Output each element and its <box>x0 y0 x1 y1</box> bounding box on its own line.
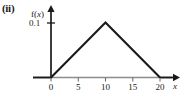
data-series-fx <box>51 23 160 78</box>
x-tick-label-0: 0 <box>49 82 54 92</box>
y-axis-label-suffix: ) <box>41 9 44 19</box>
x-axis-label: x <box>172 81 177 91</box>
figure-container: (ii) f(x) 0.1 0 5 10 15 <box>0 0 182 94</box>
x-tick-label-20: 20 <box>156 82 166 92</box>
y-tick-label-0.1: 0.1 <box>29 18 40 28</box>
x-tick-label-15: 15 <box>128 82 138 92</box>
x-tick-label-10: 10 <box>101 82 111 92</box>
y-axis-arrow-icon <box>47 5 54 12</box>
triangular-pdf-chart: f(x) 0.1 0 5 10 15 20 x <box>0 0 182 94</box>
x-tick-label-5: 5 <box>76 82 81 92</box>
